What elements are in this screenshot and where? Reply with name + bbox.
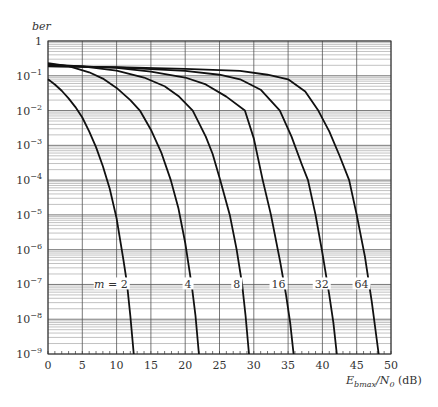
ber-chart: 05101520253035404550110−110−210−310−410−…: [0, 0, 438, 407]
y-tick-label: 10−8: [16, 311, 42, 326]
y-tick-label: 1: [35, 35, 42, 48]
x-tick-label: 50: [384, 359, 398, 372]
curve-label: 64: [355, 278, 369, 291]
x-tick-label: 35: [281, 359, 295, 372]
x-tick-label: 15: [144, 359, 158, 372]
grid: [48, 41, 391, 354]
x-axis-label: Ebmax/N0 (dB): [346, 374, 422, 389]
y-tick-label: 10−6: [16, 242, 42, 257]
y-tick-label: 10−1: [16, 68, 42, 83]
y-tick-label: 10−4: [16, 172, 42, 187]
x-tick-label: 25: [213, 359, 227, 372]
x-tick-label: 30: [247, 359, 261, 372]
y-tick-label: 10−2: [16, 103, 42, 118]
curve-m8: [48, 64, 249, 354]
y-tick-label: 10−3: [16, 137, 42, 152]
curve-label: 16: [272, 278, 286, 291]
y-axis-label: ber: [32, 20, 51, 33]
curve-m64: [48, 66, 379, 354]
curve-label: m = 2: [94, 278, 128, 291]
x-tick-label: 0: [45, 359, 52, 372]
curve-label: 4: [185, 278, 192, 291]
x-tick-label: 40: [315, 359, 329, 372]
x-tick-label: 10: [110, 359, 124, 372]
curve-m4: [48, 63, 199, 354]
x-tick-label: 45: [350, 359, 364, 372]
y-tick-label: 10−7: [16, 276, 42, 291]
y-tick-label: 10−9: [16, 346, 42, 361]
curve-m16: [48, 65, 294, 354]
y-tick-label: 10−5: [16, 207, 42, 222]
x-tick-label: 5: [79, 359, 86, 372]
x-tick-label: 20: [178, 359, 192, 372]
curves: [48, 63, 379, 354]
curve-label: 32: [315, 278, 329, 291]
curve-label: 8: [233, 278, 240, 291]
